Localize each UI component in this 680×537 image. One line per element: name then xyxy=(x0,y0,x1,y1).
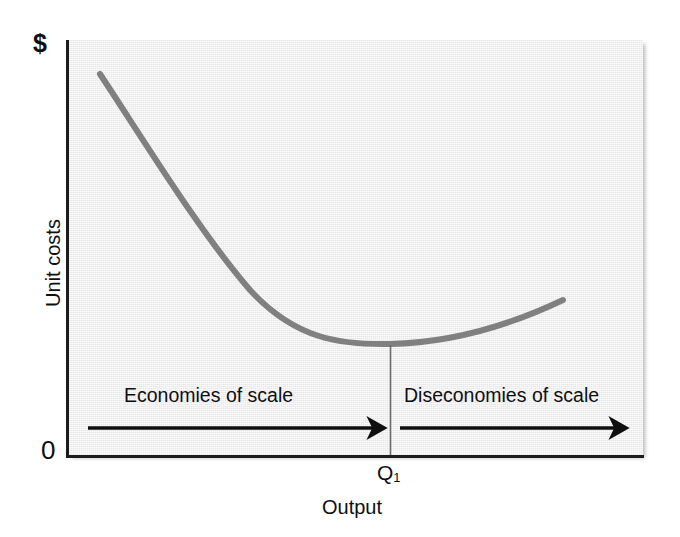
y-axis-title: Unit costs xyxy=(43,203,63,323)
diseconomies-of-scale-label: Diseconomies of scale xyxy=(404,386,599,406)
chart-figure: $ 0 Unit costs Economies of scale Diseco… xyxy=(0,0,680,537)
origin-label: 0 xyxy=(41,437,55,463)
x-axis-title: Output xyxy=(322,497,382,517)
economies-of-scale-label: Economies of scale xyxy=(124,386,293,406)
x-axis-line xyxy=(66,455,644,458)
y-axis-unit-label: $ xyxy=(33,31,47,56)
q1-subscript: 1 xyxy=(393,470,400,485)
y-axis-line xyxy=(66,40,69,458)
q1-tick-label: Q1 xyxy=(377,462,401,484)
q1-base: Q xyxy=(377,461,393,484)
